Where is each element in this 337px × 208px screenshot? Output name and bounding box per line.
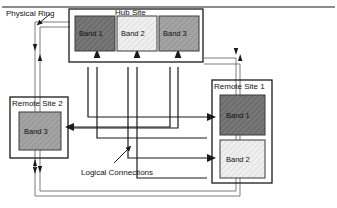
- remote2-inbound-arrowhead: [65, 123, 74, 131]
- remote-site-1-label: Remote Site 1: [214, 82, 265, 91]
- remote2-band-3-label: Band 3: [24, 127, 48, 136]
- diagram-canvas: Physical Ring Hub Site Band 1 Band 2 Ban…: [0, 0, 337, 208]
- hub-band-2-label: Band 2: [121, 29, 145, 38]
- remote-site-2-label: Remote Site 2: [12, 99, 63, 108]
- logical-connections-label: Logical Connections: [81, 168, 153, 177]
- remote1-band-1-label: Band 1: [226, 111, 250, 120]
- hub-band-3-label: Band 3: [163, 29, 187, 38]
- hub-band-1-label: Band 1: [79, 29, 103, 38]
- logical-connection-lines: [70, 67, 213, 178]
- remote1-band-2-label: Band 2: [226, 155, 250, 164]
- physical-ring-label: Physical Ring: [6, 9, 54, 18]
- hub-site-label: Hub Site: [115, 8, 146, 17]
